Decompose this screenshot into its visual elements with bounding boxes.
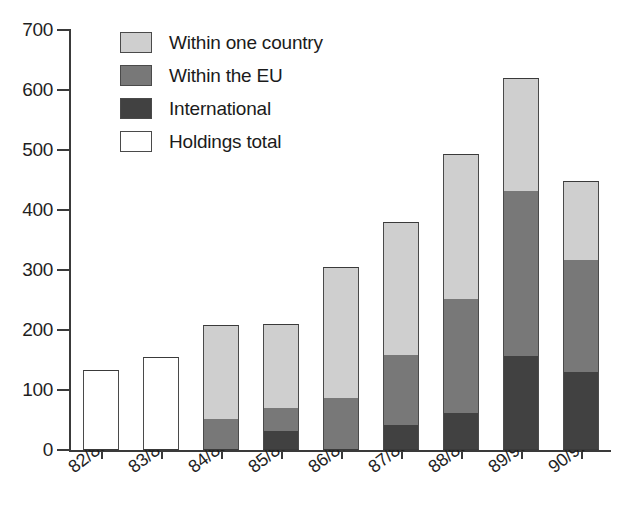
bar-segment-international [263,431,299,450]
legend-swatch-icon-within-one-country [120,32,152,53]
legend-label: Within one country [169,33,323,52]
bar-segment-holdings-total [83,370,119,450]
legend-label: Within the EU [169,66,283,85]
legend-swatch-icon-within-the-eu [120,65,152,86]
y-axis-tick-label: 100 [0,380,53,399]
y-axis-tick [57,89,70,91]
bar-segment-international [443,413,479,450]
legend-item-holdings-total: Holdings total [120,125,380,158]
bar-segment-within-the-eu [443,299,479,413]
y-axis-tick [57,329,70,331]
legend-item-within-the-eu: Within the EU [120,59,380,92]
y-axis-tick-label: 200 [0,320,53,339]
stacked-bar-chart: 0100200300400500600700 82/8383/8484/8585… [0,0,622,526]
y-axis-tick [57,29,70,31]
bar-segment-within-the-eu [323,398,359,450]
bar-segment-within-one-country [383,222,419,355]
y-axis-tick-label: 0 [0,440,53,459]
bar-88-89 [443,30,479,450]
bar-segment-within-one-country [563,181,599,260]
y-axis-tick-label: 500 [0,140,53,159]
legend-item-within-one-country: Within one country [120,26,380,59]
y-axis-tick [57,209,70,211]
legend-item-international: International [120,92,380,125]
bar-segment-within-the-eu [203,419,239,450]
y-axis-tick-label: 600 [0,80,53,99]
bar-segment-within-one-country [263,324,299,408]
legend-swatch-icon-holdings-total [120,131,152,152]
bar-87-88 [383,30,419,450]
bar-90-91 [563,30,599,450]
bar-segment-within-the-eu [383,355,419,425]
legend-label: International [169,99,271,118]
bar-segment-within-one-country [323,267,359,398]
bar-segment-holdings-total [143,357,179,450]
bar-segment-within-one-country [503,78,539,191]
y-axis-tick-label: 300 [0,260,53,279]
legend-label: Holdings total [169,132,281,151]
y-axis-tick [57,389,70,391]
y-axis-tick [57,149,70,151]
y-axis-tick-label: 400 [0,200,53,219]
bar-segment-within-the-eu [503,191,539,356]
bar-82-83 [83,30,119,450]
bar-segment-international [503,356,539,450]
bar-segment-international [383,425,419,450]
bar-segment-within-the-eu [263,408,299,431]
bar-segment-within-one-country [203,325,239,419]
bar-segment-within-the-eu [563,260,599,372]
bar-segment-within-one-country [443,154,479,299]
bar-segment-international [563,372,599,450]
y-axis-tick-label: 700 [0,20,53,39]
bar-89-90 [503,30,539,450]
legend-swatch-icon-international [120,98,152,119]
chart-legend: Within one country Within the EU Interna… [120,26,380,158]
y-axis-tick [57,269,70,271]
